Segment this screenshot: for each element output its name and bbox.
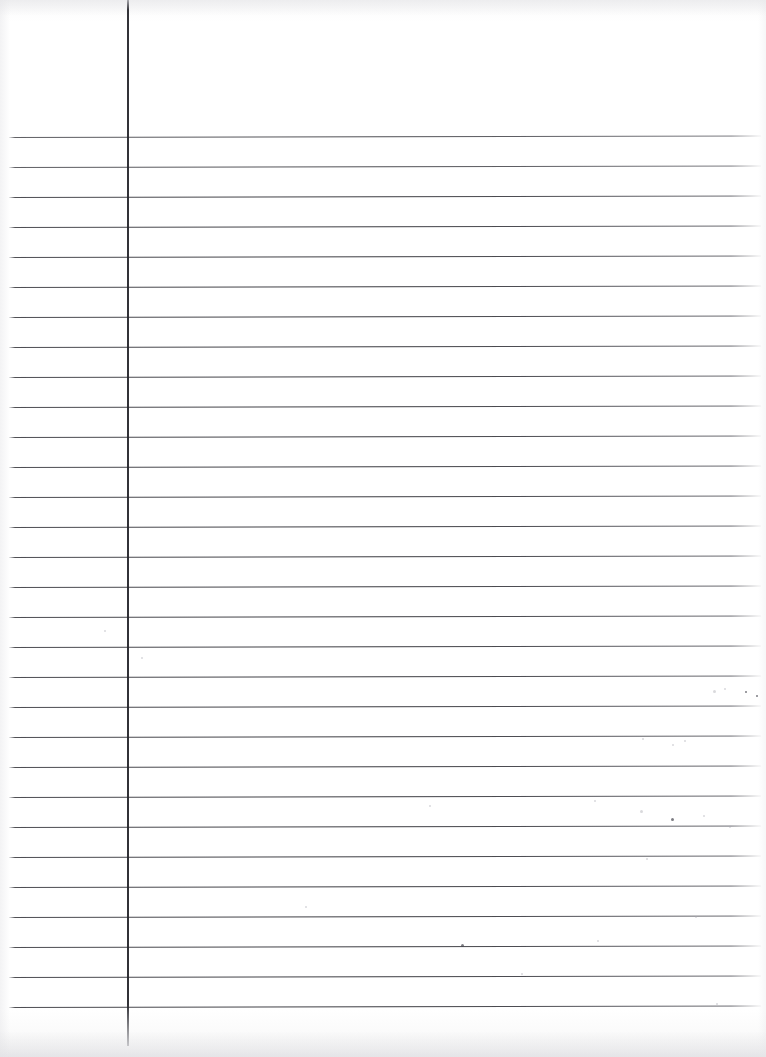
writing-area[interactable] xyxy=(127,137,761,1007)
scanned-page xyxy=(0,0,766,1057)
